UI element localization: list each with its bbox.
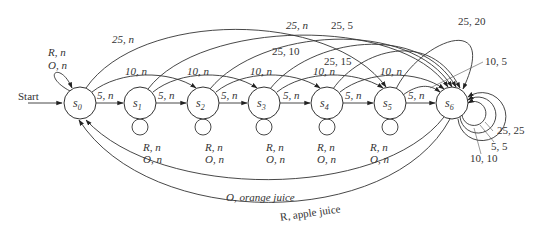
svg-text:10, n: 10, n [250, 65, 273, 77]
svg-text:25, 20: 25, 20 [458, 15, 486, 27]
svg-text:10, n: 10, n [125, 65, 148, 77]
svg-text:5, n: 5, n [221, 89, 238, 101]
svg-text:R, n: R, n [369, 141, 388, 153]
svg-text:O, n: O, n [317, 153, 336, 165]
start-label: Start [18, 90, 39, 102]
svg-text:R, apple juice: R, apple juice [279, 202, 341, 222]
state-s4: s4 [311, 87, 343, 119]
state-s1: s1 [124, 87, 156, 119]
svg-text:25, 15: 25, 15 [324, 55, 352, 67]
svg-text:R, n: R, n [265, 141, 284, 153]
state-s6: s6 [436, 87, 468, 119]
svg-text:O, n: O, n [370, 153, 389, 165]
svg-text:25, 5: 25, 5 [331, 19, 354, 31]
start-arrow: Start [18, 90, 62, 103]
edge-labels: 5, n 5, n 5, n 5, n 5, n 5, n 10, n 10, … [97, 15, 508, 223]
svg-text:R, n: R, n [316, 141, 335, 153]
svg-text:25, 10: 25, 10 [272, 45, 300, 57]
fsm-diagram: Start [0, 0, 545, 232]
state-s3: s3 [248, 87, 280, 119]
svg-text:R, n: R, n [142, 141, 161, 153]
svg-text:O, n: O, n [48, 59, 67, 71]
svg-text:O, n: O, n [205, 153, 224, 165]
svg-text:5, n: 5, n [408, 89, 425, 101]
svg-text:O, orange juice: O, orange juice [226, 191, 295, 203]
svg-text:5, n: 5, n [158, 89, 175, 101]
svg-text:5, n: 5, n [97, 89, 114, 101]
svg-text:10, n: 10, n [380, 65, 403, 77]
return-transitions [79, 117, 450, 202]
svg-text:25, n: 25, n [112, 33, 135, 45]
svg-text:25, 25: 25, 25 [497, 124, 525, 136]
svg-text:5, n: 5, n [345, 89, 362, 101]
svg-text:O, n: O, n [143, 153, 162, 165]
state-s5: s5 [374, 87, 406, 119]
svg-text:10, n: 10, n [187, 65, 210, 77]
svg-text:10, 10: 10, 10 [470, 152, 498, 164]
state-s2: s2 [187, 87, 219, 119]
svg-text:O, n: O, n [266, 153, 285, 165]
state-s0: s0 [64, 87, 96, 119]
svg-text:5, n: 5, n [283, 89, 300, 101]
svg-text:R, n: R, n [47, 46, 66, 58]
edge-s5-s6-25-20 [396, 40, 473, 89]
quarter-transitions [86, 29, 473, 89]
svg-text:R, n: R, n [204, 141, 223, 153]
svg-text:10, 5: 10, 5 [485, 55, 508, 67]
svg-text:25, n: 25, n [286, 19, 309, 31]
